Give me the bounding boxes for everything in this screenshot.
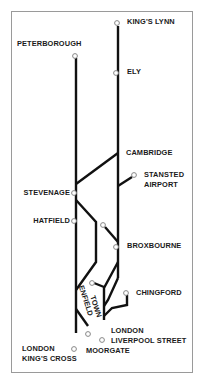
label-cambridge: CAMBRIDGE <box>126 148 172 158</box>
label-stevenage: STEVENAGE <box>20 188 70 198</box>
label-london-kings: LONDON <box>22 344 55 354</box>
station-marker-kings-lynn[interactable] <box>115 21 120 26</box>
chingford-branch-line <box>104 295 127 316</box>
station-marker-hatfield[interactable] <box>72 219 77 224</box>
label-liverpool-street: LIVERPOOL STREET <box>111 336 186 346</box>
station-marker-hertford-east[interactable] <box>101 223 106 228</box>
label-kings-cross: KING'S CROSS <box>22 354 77 364</box>
station-marker-ely[interactable] <box>114 71 119 76</box>
station-marker-stansted[interactable] <box>132 173 137 178</box>
label-moorgate: MOORGATE <box>86 346 130 356</box>
label-hatfield: HATFIELD <box>20 216 70 226</box>
label-london-liverpool: LONDON <box>111 326 144 336</box>
station-marker-peterborough[interactable] <box>73 54 78 59</box>
label-stansted: STANSTED <box>144 170 184 180</box>
stansted-branch-line <box>118 177 132 186</box>
station-marker-liverpool-street[interactable] <box>100 338 105 343</box>
station-marker-broxbourne[interactable] <box>114 245 119 250</box>
hertford-loop-line <box>76 200 96 290</box>
station-marker-moorgate[interactable] <box>86 332 91 337</box>
station-marker-stevenage[interactable] <box>72 191 77 196</box>
station-marker-enfield-town[interactable] <box>90 281 95 286</box>
label-peterborough: PETERBOROUGH <box>17 39 81 49</box>
label-kings-lynn: KING'S LYNN <box>127 17 175 27</box>
label-broxbourne: BROXBOURNE <box>127 241 181 251</box>
hertford-east-branch-line <box>105 227 118 242</box>
cambridge-link-line <box>76 153 118 184</box>
enfield-town-branch-line <box>94 283 104 287</box>
label-ely: ELY <box>127 67 141 77</box>
label-stansted-airport: AIRPORT <box>144 180 178 190</box>
label-chingford: CHINGFORD <box>136 288 182 298</box>
station-marker-kings-cross[interactable] <box>72 347 77 352</box>
station-marker-chingford[interactable] <box>124 291 129 296</box>
